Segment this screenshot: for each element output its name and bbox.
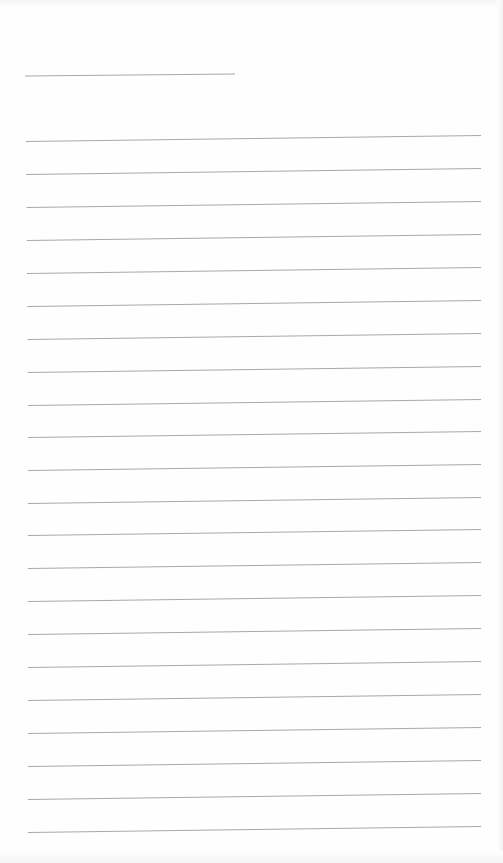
rule-line	[28, 794, 481, 800]
rule-line	[28, 400, 481, 406]
rule-line	[28, 432, 481, 438]
rule-line	[28, 761, 481, 767]
rule-line	[28, 563, 481, 569]
lined-paper-page	[0, 0, 503, 863]
rule-line	[28, 530, 481, 536]
rule-line	[28, 728, 481, 734]
rule-line	[28, 695, 481, 701]
rule-line	[28, 367, 481, 373]
rule-line	[27, 235, 481, 241]
rule-line	[28, 465, 481, 471]
rule-line	[26, 169, 481, 175]
rule-line	[27, 301, 481, 307]
rule-line	[28, 629, 481, 635]
rule-line	[27, 202, 482, 208]
rule-line	[28, 334, 482, 340]
rule-lines-group	[26, 136, 481, 833]
rule-line	[26, 136, 481, 142]
rule-line	[27, 268, 481, 274]
rule-line	[28, 596, 481, 602]
header-line	[25, 74, 235, 76]
header-rule-line	[25, 74, 235, 76]
ruled-lines	[0, 0, 503, 863]
rule-line	[28, 662, 481, 668]
rule-line	[28, 827, 481, 833]
rule-line	[28, 498, 481, 504]
